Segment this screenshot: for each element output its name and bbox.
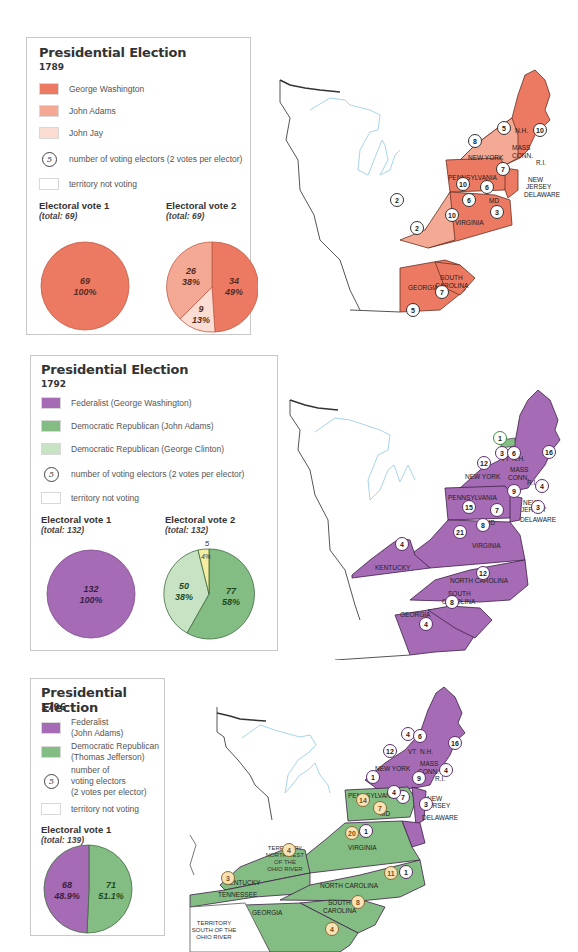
svg-text:4: 4 [287, 847, 291, 854]
svg-text:7: 7 [501, 166, 505, 173]
svg-text:MASS: MASS [512, 144, 531, 151]
svg-text:14: 14 [359, 797, 367, 804]
svg-text:71: 71 [106, 880, 116, 890]
svg-text:7: 7 [378, 805, 382, 812]
pie-chart-1792-vote2: 5 4% 77 58% 50 38% [163, 536, 259, 642]
legend-item-not-voting: territory not voting [41, 803, 139, 815]
svg-text:MD: MD [489, 197, 499, 204]
svg-text:34: 34 [229, 276, 239, 286]
electoral-vote-1-title: Electoral vote 1(total: 132) [41, 514, 111, 536]
svg-text:9: 9 [512, 488, 516, 495]
map-1796: NEW YORK PENNSYLVANIA VIRGINIA KENTUCKY … [180, 675, 578, 952]
svg-text:11: 11 [387, 870, 395, 877]
legend-item-dr-jefferson: Democratic Republican(Thomas Jefferson) [41, 741, 159, 763]
svg-text:10: 10 [448, 212, 456, 219]
svg-text:NEW YORK: NEW YORK [375, 765, 411, 772]
legend-item-not-voting: territory not voting [41, 492, 139, 504]
svg-text:3: 3 [226, 875, 230, 882]
svg-text:4: 4 [330, 926, 334, 933]
legend-label: Democratic Republican(Thomas Jefferson) [71, 741, 159, 763]
legend-item-dr-adams: Democratic Republican (John Adams) [41, 420, 214, 432]
legend-label: George Washington [69, 84, 144, 95]
swatch [39, 178, 59, 190]
svg-text:DELAWARE: DELAWARE [422, 814, 459, 821]
svg-text:OHIO RIVER: OHIO RIVER [267, 866, 303, 872]
svg-text:132: 132 [83, 584, 98, 594]
svg-text:49%: 49% [224, 287, 243, 297]
svg-text:GEORGIA: GEORGIA [400, 611, 431, 618]
svg-text:7: 7 [401, 794, 405, 801]
svg-text:12: 12 [479, 570, 487, 577]
legend-label: territory not voting [69, 179, 137, 190]
legend-item-electors: 5 number of voting electors (2 votes per… [41, 467, 244, 482]
svg-text:4: 4 [444, 767, 448, 774]
svg-text:NEW YORK: NEW YORK [468, 154, 504, 161]
legend-1789: Presidential Election 1789 George Washin… [26, 37, 251, 335]
swatch [41, 420, 61, 432]
svg-text:VIRGINIA: VIRGINIA [348, 844, 377, 851]
legend-label: number ofvoting electors(2 votes per ele… [71, 765, 147, 798]
electoral-vote-2-title: Electoral vote 2(total: 132) [165, 514, 235, 536]
svg-text:12: 12 [480, 460, 488, 467]
svg-text:38%: 38% [175, 592, 193, 602]
legend-label: John Jay [69, 128, 103, 139]
svg-text:5: 5 [205, 539, 210, 548]
svg-text:7: 7 [440, 289, 444, 296]
svg-text:38%: 38% [182, 277, 200, 287]
pie-chart-1792-vote1: 132 100% [45, 548, 137, 640]
legend-item-jay: John Jay [39, 127, 103, 139]
legend-label: number of voting electors (2 votes per e… [71, 469, 244, 480]
legend-item-adams: John Adams [39, 105, 116, 117]
swatch [39, 127, 59, 139]
swatch [39, 105, 59, 117]
svg-text:13%: 13% [192, 315, 210, 325]
legend-label: territory not voting [71, 804, 139, 815]
svg-text:DELAWARE: DELAWARE [524, 191, 561, 198]
legend-label: Federalist (George Washington) [71, 398, 192, 409]
svg-text:NEW YORK: NEW YORK [465, 473, 501, 480]
svg-text:R.I.: R.I. [536, 159, 546, 166]
svg-text:8: 8 [481, 522, 485, 529]
legend-label: Federalist(John Adams) [71, 717, 123, 739]
electoral-vote-1-title: Electoral vote 1(total: 139) [41, 824, 111, 846]
legend-item-dr-clinton: Democratic Republican (George Clinton) [41, 443, 224, 455]
legend-item-electors: 5 number ofvoting electors(2 votes per e… [41, 765, 147, 798]
svg-text:SOUTH: SOUTH [328, 899, 351, 906]
svg-text:69: 69 [80, 276, 90, 286]
svg-text:SOUTH OF THE: SOUTH OF THE [192, 927, 237, 933]
svg-text:1: 1 [364, 828, 368, 835]
legend-item-washington: George Washington [39, 83, 144, 95]
svg-text:77: 77 [226, 586, 237, 596]
svg-text:CONN.: CONN. [508, 474, 529, 481]
svg-text:OHIO RIVER: OHIO RIVER [196, 934, 232, 940]
svg-text:VT: VT [408, 748, 416, 755]
panel-year: 1792 [41, 379, 66, 389]
legend-item-federalist-washington: Federalist (George Washington) [41, 397, 192, 409]
swatch [41, 803, 61, 815]
svg-text:4: 4 [424, 621, 428, 628]
svg-text:100%: 100% [79, 595, 102, 605]
svg-text:4: 4 [406, 731, 410, 738]
svg-text:58%: 58% [222, 597, 240, 607]
svg-text:6: 6 [485, 184, 489, 191]
map-1792: NEW YORK PENNSYLVANIA VIRGINIA KENTUCKY … [270, 370, 578, 660]
svg-text:21: 21 [456, 529, 464, 536]
svg-text:PENNSYLVANIA: PENNSYLVANIA [448, 174, 498, 181]
svg-text:2: 2 [395, 197, 399, 204]
svg-text:9: 9 [417, 775, 421, 782]
swatch [41, 746, 61, 758]
svg-text:1: 1 [404, 869, 408, 876]
legend-label: Democratic Republican (George Clinton) [71, 444, 224, 455]
svg-text:SOUTH: SOUTH [440, 274, 463, 281]
svg-text:N.H.: N.H. [420, 748, 433, 755]
legend-1792: Presidential Election 1792 Federalist (G… [30, 355, 278, 651]
legend-item-not-voting: territory not voting [39, 178, 137, 190]
svg-text:3: 3 [495, 209, 499, 216]
legend-item-federalist-adams: Federalist(John Adams) [41, 717, 123, 739]
svg-text:48.9%: 48.9% [53, 891, 80, 901]
legend-1796: Presidential Election 1796 Federalist(Jo… [30, 678, 165, 936]
svg-text:4%: 4% [201, 553, 211, 560]
svg-text:PENNSYLVANIA: PENNSYLVANIA [448, 494, 498, 501]
svg-text:9: 9 [198, 304, 203, 314]
legend-item-electors: 5 number of voting electors (2 votes per… [39, 152, 242, 167]
